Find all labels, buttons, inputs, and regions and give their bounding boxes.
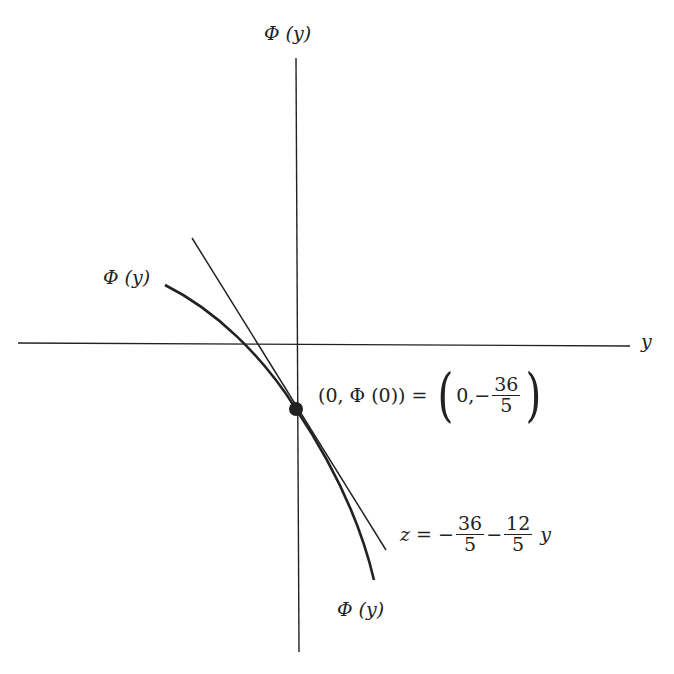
tangent-lhs: z =	[400, 523, 432, 545]
tangent-point	[289, 402, 303, 416]
point-x: 0,	[456, 384, 474, 406]
diagram-canvas	[0, 0, 674, 674]
phi-curve	[165, 285, 374, 580]
horizontal-axis	[18, 343, 630, 346]
point-annotation: (0, Φ (0)) = (0,−365)	[318, 366, 545, 424]
point-fraction: 365	[492, 375, 520, 416]
horizontal-axis-label: y	[641, 330, 652, 352]
right-paren: )	[526, 366, 542, 424]
tangent-fraction-2: 125	[504, 514, 532, 555]
curve-label-lower: Φ (y)	[337, 598, 384, 620]
point-label: (0, Φ (0)) =	[318, 384, 427, 406]
vertical-axis-label: Φ (y)	[264, 22, 311, 44]
tangent-equation: z = −365−125 y	[400, 514, 551, 555]
curve-label-upper: Φ (y)	[103, 266, 150, 288]
point-minus: −	[474, 384, 490, 406]
tangent-fraction-1: 365	[456, 514, 484, 555]
left-paren: (	[437, 366, 453, 424]
vertical-axis	[296, 58, 299, 652]
